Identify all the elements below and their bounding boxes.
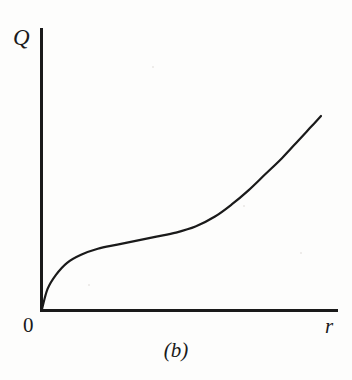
data-curve-q-of-r: [42, 116, 321, 309]
figure-caption: (b): [0, 340, 352, 361]
x-axis-label: r: [325, 316, 333, 337]
plot-area: [0, 0, 352, 380]
y-axis-label: Q: [13, 26, 30, 49]
origin-tick-label: 0: [23, 315, 34, 336]
figure-container: Q r 0 (b): [0, 0, 352, 380]
